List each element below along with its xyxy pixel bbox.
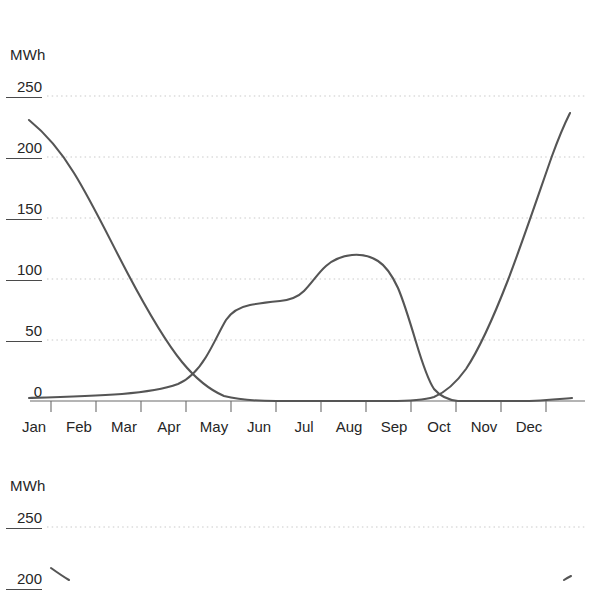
x-axis-tick-marks	[51, 401, 546, 412]
gridlines-top	[47, 96, 585, 340]
series-line-heating-demand-bottom-right	[564, 576, 571, 580]
x-tick-dec: Dec	[503, 418, 555, 435]
series-line-heating-demand	[29, 113, 570, 401]
chart-panel-bottom: MWh 250 200	[0, 450, 593, 580]
series-line-cooling-demand	[29, 255, 572, 401]
series-line-heating-demand-bottom	[51, 568, 69, 580]
chart-panel-top: MWh 250 200 150 100 50 0	[0, 0, 593, 450]
plot-area-top	[0, 0, 593, 450]
plot-area-bottom	[0, 450, 593, 580]
